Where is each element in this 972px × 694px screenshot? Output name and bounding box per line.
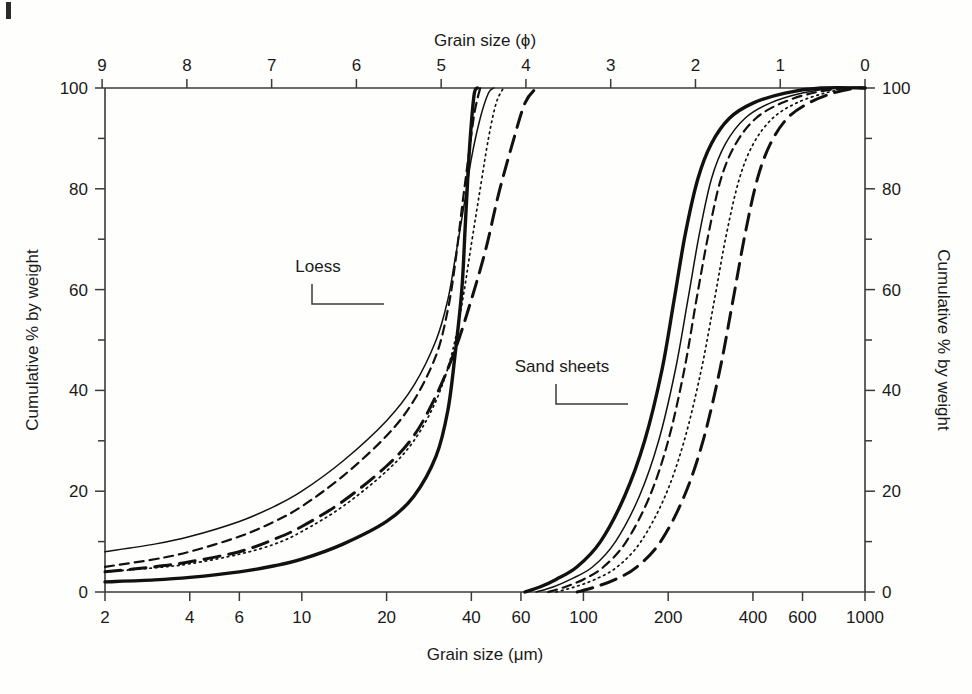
x-tick-label-phi: 5 [436,56,445,75]
curve-sand-5-long-dashed [577,88,865,592]
x-tick-label-phi: 7 [267,56,276,75]
x-tick-label-um: 100 [569,608,597,627]
x-tick-label-phi: 9 [97,56,106,75]
y-tick-label-left: 40 [69,381,88,400]
curve-loess-2-dashed [105,88,480,567]
y-tick-label-left: 0 [79,583,88,602]
annotation-label: Loess [295,257,340,276]
y-tick-label-left: 60 [69,281,88,300]
x-tick-label-phi: 1 [775,56,784,75]
curve-loess-1-thin-solid [105,88,494,552]
x-tick-label-um: 20 [377,608,396,627]
x-tick-label-phi: 0 [860,56,869,75]
curve-loess-5-thick-solid [105,88,477,582]
annotation-leader [312,284,384,304]
x-tick-label-um: 600 [788,608,816,627]
x-tick-label-um: 40 [462,608,481,627]
curve-sand-4-dotted [556,88,865,592]
figure-root: 246102040601002004006001000Grain size (μ… [0,0,972,694]
x-tick-label-phi: 3 [606,56,615,75]
annotation-leader [556,384,628,404]
x-tick-label-phi: 4 [521,56,530,75]
top-axis-title: Grain size (ϕ) [434,31,536,50]
y-axis-title-left: Cumulative % by weight [23,249,42,431]
x-axis-title: Grain size (μm) [427,645,544,664]
x-tick-label-um: 60 [511,608,530,627]
x-tick-label-phi: 8 [182,56,191,75]
annotation-label: Sand sheets [515,357,610,376]
y-axis-title-right: Cumulative % by weight [934,249,953,431]
y-tick-label-right: 20 [882,482,901,501]
x-tick-label-um: 2 [100,608,109,627]
grain-size-cumulative-chart: 246102040601002004006001000Grain size (μ… [0,0,972,694]
x-tick-label-phi: 6 [352,56,361,75]
x-tick-label-um: 1000 [846,608,884,627]
y-tick-label-right: 40 [882,381,901,400]
curve-sand-2-thin-solid [536,88,865,592]
y-tick-label-left: 100 [60,79,88,98]
x-tick-label-um: 6 [235,608,244,627]
y-tick-label-right: 80 [882,180,901,199]
x-tick-label-um: 10 [292,608,311,627]
y-tick-label-left: 20 [69,482,88,501]
x-tick-label-phi: 2 [691,56,700,75]
y-tick-label-left: 80 [69,180,88,199]
x-tick-label-um: 200 [654,608,682,627]
x-tick-label-um: 4 [185,608,194,627]
y-tick-label-right: 100 [882,79,910,98]
y-tick-label-right: 0 [882,583,891,602]
curve-sand-1-thick-solid [525,88,865,592]
x-tick-label-um: 400 [739,608,767,627]
y-tick-label-right: 60 [882,281,901,300]
